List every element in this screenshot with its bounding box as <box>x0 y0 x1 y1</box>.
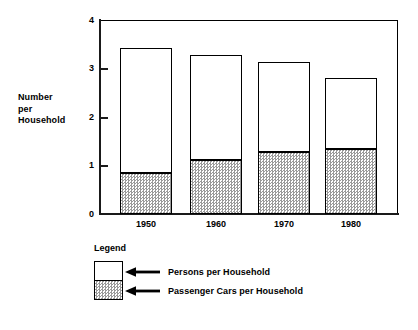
y-tick-label-0: 0 <box>68 210 94 219</box>
bar-1960-cars <box>190 160 242 214</box>
chart-figure: Number per Household 4 3 2 1 0 1950 1960… <box>0 0 418 330</box>
x-tick-label-1950: 1950 <box>116 219 176 229</box>
bar-1950[interactable] <box>120 48 172 214</box>
y-axis-title-line-1: Number <box>18 92 94 104</box>
left-arrow-icon <box>123 285 163 297</box>
x-tick-label-1980: 1980 <box>321 219 381 229</box>
y-tick-3 <box>101 68 108 70</box>
legend-label-persons: Persons per Household <box>168 267 270 278</box>
x-tick-label-1970: 1970 <box>254 219 314 229</box>
left-arrow-icon <box>123 266 163 278</box>
bar-1980-cars <box>325 149 377 214</box>
bar-1960[interactable] <box>190 55 242 214</box>
legend-swatch-cars <box>95 281 122 300</box>
y-tick-label-1: 1 <box>68 161 94 170</box>
y-tick-label-2: 2 <box>68 113 94 122</box>
y-tick-1 <box>101 165 108 167</box>
bar-1970[interactable] <box>258 62 310 214</box>
bar-1980-persons <box>325 78 377 149</box>
legend-swatch-persons <box>95 262 122 281</box>
legend-swatch-box <box>94 261 123 300</box>
bar-1950-cars <box>120 173 172 214</box>
bar-1970-persons <box>258 62 310 152</box>
legend-label-cars: Passenger Cars per Household <box>168 286 303 297</box>
y-tick-label-3: 3 <box>68 64 94 73</box>
bar-1970-cars <box>258 152 310 214</box>
legend-title: Legend <box>94 243 126 253</box>
x-tick-label-1960: 1960 <box>186 219 246 229</box>
bar-1960-persons <box>190 55 242 160</box>
y-tick-label-4: 4 <box>68 16 94 25</box>
bar-1950-persons <box>120 48 172 173</box>
y-tick-2 <box>101 117 108 119</box>
bar-1980[interactable] <box>325 78 377 214</box>
